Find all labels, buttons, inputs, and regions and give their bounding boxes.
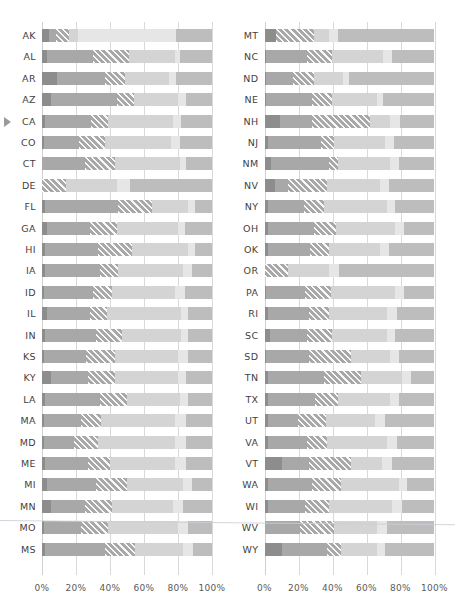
bar-segment-2 bbox=[44, 350, 87, 363]
bar-row bbox=[265, 93, 435, 106]
bar-segment-4 bbox=[334, 521, 377, 534]
y-axis-label-WY: WY bbox=[243, 543, 259, 556]
stacked-bar bbox=[265, 29, 435, 42]
bar-segment-4 bbox=[314, 72, 343, 85]
bar-segment-5 bbox=[183, 264, 192, 277]
bar-segment-4 bbox=[152, 200, 188, 213]
bar-segment-6 bbox=[394, 136, 435, 149]
bar-segment-6 bbox=[181, 115, 212, 128]
bar-segment-5 bbox=[395, 222, 404, 235]
bar-segment-4 bbox=[107, 307, 182, 320]
y-axis-label-MO: MO bbox=[20, 521, 36, 534]
bar-segment-3 bbox=[100, 393, 127, 406]
bar-segment-4 bbox=[118, 264, 183, 277]
bar-segment-2 bbox=[45, 243, 98, 256]
bar-row bbox=[42, 200, 212, 213]
bar-row bbox=[265, 543, 435, 556]
bar-row bbox=[42, 457, 212, 470]
bar-segment-5 bbox=[183, 478, 192, 491]
bar-segment-6 bbox=[176, 72, 212, 85]
bar-segment-2 bbox=[268, 436, 307, 449]
y-axis-label-IA: IA bbox=[26, 264, 36, 277]
stacked-bar bbox=[265, 136, 435, 149]
stacked-bar bbox=[42, 457, 212, 470]
bar-segment-5 bbox=[171, 136, 180, 149]
bar-segment-1 bbox=[265, 157, 272, 170]
bar-segment-5 bbox=[395, 286, 404, 299]
y-axis-label-ND: ND bbox=[243, 72, 258, 85]
y-axis-label-IN: IN bbox=[25, 329, 36, 342]
y-axis-label-MA: MA bbox=[21, 414, 37, 427]
bar-segment-6 bbox=[185, 286, 212, 299]
bar-segment-5 bbox=[169, 72, 176, 85]
bar-segment-3 bbox=[105, 543, 136, 556]
bar-segment-6 bbox=[387, 521, 435, 534]
y-axis-label-LA: LA bbox=[23, 393, 36, 406]
bar-segment-4 bbox=[314, 29, 329, 42]
bar-segment-3 bbox=[74, 436, 98, 449]
stacked-bar bbox=[42, 371, 212, 384]
stacked-bar bbox=[265, 500, 435, 513]
bar-row bbox=[42, 350, 212, 363]
bar-segment-6 bbox=[404, 286, 435, 299]
bar-segment-5 bbox=[178, 222, 185, 235]
stacked-bar bbox=[265, 72, 435, 85]
stacked-bar bbox=[42, 521, 212, 534]
bar-segment-6 bbox=[183, 500, 212, 513]
bar-segment-5 bbox=[117, 179, 131, 192]
bar-segment-5 bbox=[180, 157, 187, 170]
y-axis-label-DE: DE bbox=[22, 179, 36, 192]
bar-row bbox=[265, 478, 435, 491]
bar-segment-6 bbox=[389, 179, 435, 192]
bar-segment-3 bbox=[305, 286, 331, 299]
bar-segment-6 bbox=[193, 543, 212, 556]
bar-segment-5 bbox=[188, 200, 195, 213]
y-axis-label-KS: KS bbox=[23, 350, 36, 363]
stacked-bar bbox=[42, 93, 212, 106]
bar-segment-5 bbox=[392, 500, 402, 513]
y-axis-label-OH: OH bbox=[243, 222, 258, 235]
bar-segment-4 bbox=[108, 115, 173, 128]
y-axis-label-NV: NV bbox=[244, 179, 258, 192]
bar-segment-6 bbox=[400, 115, 434, 128]
bar-segment-5 bbox=[329, 29, 338, 42]
bar-segment-1 bbox=[265, 457, 282, 470]
bar-segment-3 bbox=[314, 222, 336, 235]
bar-segment-3 bbox=[81, 521, 108, 534]
y-axis-label-AR: AR bbox=[22, 72, 36, 85]
plot-area-left bbox=[42, 22, 212, 575]
bar-segment-5 bbox=[375, 414, 385, 427]
bar-segment-5 bbox=[382, 457, 392, 470]
bar-segment-2 bbox=[44, 436, 75, 449]
bar-segment-4 bbox=[115, 371, 178, 384]
bar-segment-4 bbox=[112, 500, 173, 513]
stacked-bar-chart-panels: AKALARAZCACOCTDEFLGAHIIAIDILINKSKYLAMAMD… bbox=[0, 0, 455, 607]
bar-segment-3 bbox=[90, 307, 107, 320]
bar-segment-5 bbox=[402, 371, 411, 384]
bar-row bbox=[265, 29, 435, 42]
bar-segment-2 bbox=[268, 200, 304, 213]
bar-segment-2 bbox=[268, 478, 312, 491]
bar-segment-6 bbox=[397, 436, 434, 449]
bar-row bbox=[265, 157, 435, 170]
stacked-bar bbox=[42, 222, 212, 235]
bar-segment-4 bbox=[329, 243, 380, 256]
bar-segment-6 bbox=[395, 200, 434, 213]
bar-segment-2 bbox=[47, 222, 90, 235]
bar-segment-6 bbox=[397, 307, 434, 320]
stacked-bar bbox=[265, 93, 435, 106]
bar-segment-2 bbox=[44, 136, 80, 149]
bar-segment-1 bbox=[42, 371, 51, 384]
bar-segment-3 bbox=[85, 157, 116, 170]
y-axis-label-ID: ID bbox=[25, 286, 36, 299]
bar-segment-4 bbox=[115, 157, 180, 170]
stacked-bar bbox=[42, 543, 212, 556]
bar-segment-2 bbox=[266, 286, 305, 299]
bar-segment-5 bbox=[188, 243, 195, 256]
bar-segment-3 bbox=[93, 286, 112, 299]
bar-segment-5 bbox=[173, 115, 182, 128]
bar-row bbox=[42, 222, 212, 235]
bar-segment-3 bbox=[288, 179, 327, 192]
bar-segment-6 bbox=[188, 329, 212, 342]
bar-segment-2 bbox=[51, 371, 88, 384]
